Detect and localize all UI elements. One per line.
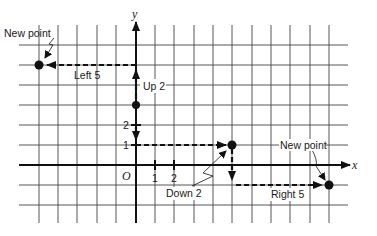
left-5-label: Left 5 [74, 69, 100, 81]
origin-label: O [122, 169, 131, 183]
new-point-left-label: New point [4, 27, 51, 39]
x-tick-2: 2 [171, 172, 177, 184]
y-tick-1: 1 [123, 139, 129, 151]
start-point-right [228, 141, 237, 150]
down-2-label: Down 2 [166, 187, 202, 199]
right-5-label: Right 5 [271, 188, 304, 200]
y-axis-label: y [131, 7, 138, 21]
new-point-right-label: New point [280, 139, 327, 151]
start-point-left [132, 101, 140, 109]
x-axis-label: x [351, 158, 358, 172]
coordinate-plane-diagram: y x O 1 2 1 2 New point Left 5 Up 2 New … [0, 0, 377, 236]
up-2-label: Up 2 [143, 80, 165, 92]
y-tick-2: 2 [123, 119, 129, 131]
new-point-right [325, 181, 334, 190]
x-tick-1: 1 [152, 172, 158, 184]
new-point-left [35, 61, 44, 70]
